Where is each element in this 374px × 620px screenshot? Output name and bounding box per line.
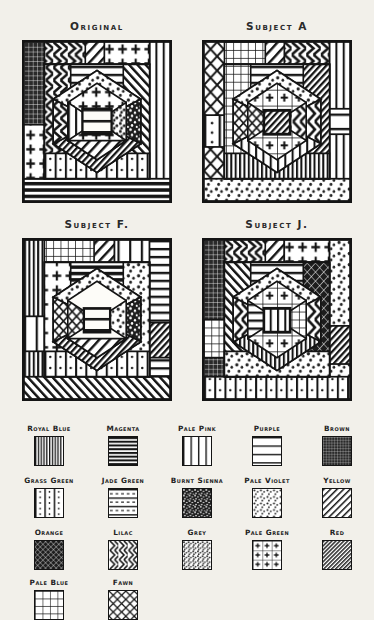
- legend-item-burnt-sienna[interactable]: Burnt Sienna: [160, 476, 234, 518]
- legend-label: Burnt Sienna: [160, 476, 234, 485]
- legend-swatch-diagonal-hatch-dense: [322, 540, 352, 570]
- legend-swatch-plus-grid: [252, 540, 282, 570]
- legend-swatch-cross-hatch-dark: [34, 540, 64, 570]
- legend-swatch-horizontal-lines-heavy: [108, 436, 138, 466]
- legend-item-yellow[interactable]: Yellow: [300, 476, 374, 518]
- quilt-panel-subject-j[interactable]: [202, 238, 352, 401]
- legend-label: Lilac: [86, 528, 160, 537]
- legend-label: Brown: [300, 424, 374, 433]
- legend-label: Purple: [230, 424, 304, 433]
- quilt-panel-subject-f[interactable]: [22, 238, 172, 401]
- legend-swatch-open-grid: [34, 590, 64, 620]
- legend-label: Royal Blue: [12, 424, 86, 433]
- legend-label: Fawn: [86, 578, 160, 587]
- quilt-artwork-subject-j: [204, 240, 350, 399]
- legend-item-brown[interactable]: Brown: [300, 424, 374, 466]
- legend-item-grass-green[interactable]: Grass Green: [12, 476, 86, 518]
- legend-item-orange[interactable]: Orange: [12, 528, 86, 570]
- legend-item-grey[interactable]: Grey: [160, 528, 234, 570]
- legend-label: Pale Blue: [12, 578, 86, 587]
- quilt-artwork-subject-a: [204, 42, 350, 201]
- legend-item-pale-pink[interactable]: Pale Pink: [160, 424, 234, 466]
- legend-swatch-sparse-speckle: [252, 488, 282, 518]
- legend-item-magenta[interactable]: Magenta: [86, 424, 160, 466]
- legend-item-pale-blue[interactable]: Pale Blue: [12, 578, 86, 620]
- legend-swatch-dense-speckle-dark: [182, 488, 212, 518]
- legend-item-pale-green[interactable]: Pale Green: [230, 528, 304, 570]
- panel-title-subject-j: Subject J.: [202, 218, 352, 230]
- quilt-artwork-subject-f: [24, 240, 170, 399]
- legend-swatch-wavy-zigzag: [108, 540, 138, 570]
- legend-swatch-horizontal-bands-dashed: [108, 488, 138, 518]
- legend-swatch-horizontal-lines-wide: [252, 436, 282, 466]
- quilt-panel-subject-a[interactable]: [202, 40, 352, 203]
- legend-label: Magenta: [86, 424, 160, 433]
- legend-item-purple[interactable]: Purple: [230, 424, 304, 466]
- legend-label: Orange: [12, 528, 86, 537]
- legend-item-royal-blue[interactable]: Royal Blue: [12, 424, 86, 466]
- legend-item-pale-violet[interactable]: Pale Violet: [230, 476, 304, 518]
- legend-swatch-vertical-bands-dotted: [34, 488, 64, 518]
- legend-swatch-stipple: [182, 540, 212, 570]
- quilt-panel-original[interactable]: [22, 40, 172, 203]
- quilt-artwork-original: [24, 42, 170, 201]
- panel-title-subject-a: Subject A: [202, 20, 352, 32]
- legend-label: Pale Pink: [160, 424, 234, 433]
- panel-title-original: Original: [22, 20, 172, 32]
- legend-swatch-vertical-lines-wide: [182, 436, 212, 466]
- panel-title-subject-f: Subject F.: [22, 218, 172, 230]
- legend-swatch-fine-grid-dark: [322, 436, 352, 466]
- pattern-legend: Royal Blue Magenta Pale Pink Purple Brow…: [0, 420, 374, 613]
- legend-item-jade-green[interactable]: Jade Green: [86, 476, 160, 518]
- legend-swatch-vertical-lines-dense: [34, 436, 64, 466]
- legend-swatch-diagonal-hatch: [322, 488, 352, 518]
- legend-item-fawn[interactable]: Fawn: [86, 578, 160, 620]
- legend-label: Jade Green: [86, 476, 160, 485]
- legend-label: Grass Green: [12, 476, 86, 485]
- legend-label: Grey: [160, 528, 234, 537]
- legend-label: Yellow: [300, 476, 374, 485]
- legend-label: Pale Green: [230, 528, 304, 537]
- legend-item-red[interactable]: Red: [300, 528, 374, 570]
- legend-label: Pale Violet: [230, 476, 304, 485]
- legend-item-lilac[interactable]: Lilac: [86, 528, 160, 570]
- legend-swatch-lattice-x: [108, 590, 138, 620]
- legend-label: Red: [300, 528, 374, 537]
